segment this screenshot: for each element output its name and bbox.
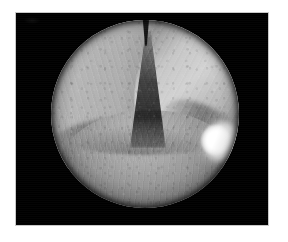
page-root	[0, 0, 288, 242]
endoscopic-figure-panel	[16, 13, 268, 225]
scope-edge-feather	[51, 20, 239, 208]
figure-caption	[0, 0, 1, 1]
scan-artifact	[24, 17, 40, 24]
endoscope-circular-field	[51, 20, 239, 208]
